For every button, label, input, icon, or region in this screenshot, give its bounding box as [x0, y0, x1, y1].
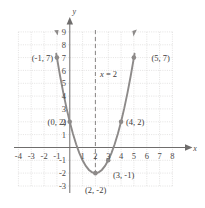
x-axis-arrow-icon — [185, 144, 193, 150]
axis-of-symmetry-value: = 2 — [104, 69, 117, 79]
point-label-minus1-7: (-1, 7) — [32, 53, 53, 63]
data-point — [67, 119, 72, 124]
curve-arrow-right-icon — [132, 30, 137, 37]
x-axis-label: x — [192, 144, 197, 153]
y-tick-label: 9 — [62, 27, 66, 37]
y-tick-labels-group: 9 8 7 6 5 4 3 2 1 -1 -2 -3 — [59, 27, 67, 191]
point-label-4-2: (4, 2) — [126, 117, 145, 127]
y-tick-label: 8 — [62, 40, 66, 50]
y-tick-label: 7 — [62, 53, 66, 63]
x-tick-label: 3 — [106, 151, 110, 161]
point-label-0-2: (0, 2) — [48, 117, 67, 127]
x-tick-label: 8 — [170, 151, 174, 161]
x-tick-label: 5 — [132, 151, 136, 161]
x-tick-label: 6 — [145, 151, 149, 161]
y-tick-label: -3 — [59, 181, 66, 191]
x-tick-label: -4 — [15, 151, 23, 161]
axes-group — [14, 17, 193, 193]
x-tick-label: 1 — [80, 151, 84, 161]
data-point — [93, 171, 98, 176]
x-tick-label: 2 — [93, 151, 97, 161]
data-point — [132, 55, 137, 60]
parabola-figure: -4 -3 -2 -1 1 2 3 4 5 6 7 8 9 8 7 6 5 4 … — [0, 0, 205, 208]
data-point — [55, 55, 60, 60]
y-tick-label: 1 — [62, 130, 66, 140]
y-axis-label: y — [72, 7, 77, 16]
point-label-3-minus1: (3, -1) — [113, 170, 134, 180]
x-tick-label: 4 — [119, 151, 124, 161]
coordinate-plot: -4 -3 -2 -1 1 2 3 4 5 6 7 8 9 8 7 6 5 4 … — [0, 0, 205, 208]
y-axis-arrow-icon — [67, 17, 73, 25]
y-tick-label: 5 — [62, 78, 66, 88]
x-tick-label: 7 — [157, 151, 161, 161]
y-tick-label: -1 — [59, 155, 66, 165]
y-tick-label: 6 — [62, 66, 66, 76]
y-tick-label: -2 — [59, 168, 66, 178]
x-tick-label: -3 — [28, 151, 35, 161]
curve-arrow-left-icon — [54, 30, 58, 36]
y-tick-label: 3 — [62, 104, 66, 114]
x-tick-labels-group: -4 -3 -2 -1 1 2 3 4 5 6 7 8 — [15, 151, 175, 161]
x-tick-label: -2 — [41, 151, 48, 161]
axis-of-symmetry-label: x = 2 — [99, 69, 117, 79]
data-point — [119, 119, 124, 124]
point-label-2-minus2: (2, -2) — [85, 185, 106, 195]
point-label-5-7: (5, 7) — [152, 53, 171, 63]
